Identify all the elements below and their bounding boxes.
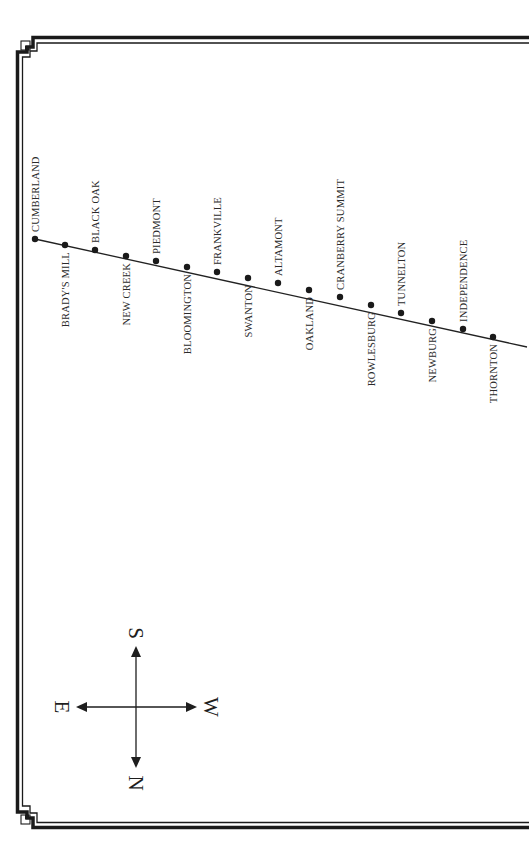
station-dot-icon: [32, 236, 38, 242]
station-label: ROWLESBURG: [366, 312, 377, 387]
station-dot-icon: [429, 318, 435, 324]
station: BRADY'S MILL: [60, 242, 71, 327]
compass-label-left: E: [50, 701, 74, 714]
station-label: TUNNELTON: [396, 242, 407, 306]
station-dot-icon: [460, 326, 466, 332]
station: BLACK OAK: [90, 180, 101, 253]
stations-group: CUMBERLANDBRADY'S MILLBLACK OAKNEW CREEK…: [30, 156, 499, 403]
arrow-right-icon: [186, 702, 197, 712]
station-label: INDEPENDENCE: [458, 240, 469, 322]
station-dot-icon: [214, 269, 220, 275]
station-label: NEW CREEK: [121, 263, 132, 326]
station: SWANTON: [243, 275, 254, 338]
compass-rose: S N E W: [50, 627, 223, 790]
station-dot-icon: [306, 287, 312, 293]
station-label: BLACK OAK: [90, 180, 101, 243]
station-dot-icon: [123, 253, 129, 259]
page-border: [18, 38, 529, 828]
station-label: OAKLAND: [304, 297, 315, 351]
station: TUNNELTON: [396, 242, 407, 317]
station: THORNTON: [488, 334, 499, 403]
station: ALTAMONT: [273, 217, 284, 286]
station-label: SWANTON: [243, 285, 254, 338]
station-label: BLOOMINGTON: [182, 274, 193, 354]
station: INDEPENDENCE: [458, 240, 469, 333]
station-label: ALTAMONT: [273, 217, 284, 276]
station-dot-icon: [490, 334, 496, 340]
compass-label-top: S: [124, 627, 148, 639]
station-dot-icon: [398, 310, 404, 316]
station-label: NEWBURG: [427, 328, 438, 383]
station-dot-icon: [275, 280, 281, 286]
station-dot-icon: [245, 275, 251, 281]
station: NEW CREEK: [121, 253, 132, 326]
station-label: BRADY'S MILL: [60, 252, 71, 327]
station-label: CRANBERRY SUMMIT: [335, 179, 346, 290]
arrow-left-icon: [76, 702, 87, 712]
station: CUMBERLAND: [30, 156, 41, 242]
station-label: PIEDMONT: [151, 198, 162, 254]
station-dot-icon: [62, 242, 68, 248]
compass-label-bottom: N: [124, 775, 148, 790]
station-dot-icon: [337, 294, 343, 300]
station: PIEDMONT: [151, 198, 162, 264]
station: ROWLESBURG: [366, 302, 377, 387]
station: CRANBERRY SUMMIT: [335, 179, 346, 301]
station-label: THORNTON: [488, 344, 499, 403]
station-dot-icon: [92, 247, 98, 253]
station-dot-icon: [368, 302, 374, 308]
station-label: CUMBERLAND: [30, 156, 41, 232]
route-map: CUMBERLANDBRADY'S MILLBLACK OAKNEW CREEK…: [0, 0, 529, 862]
station-dot-icon: [153, 258, 159, 264]
station-dot-icon: [184, 264, 190, 270]
station: BLOOMINGTON: [182, 264, 193, 354]
compass-label-right: W: [199, 697, 223, 717]
arrow-down-icon: [131, 757, 141, 768]
arrow-up-icon: [131, 646, 141, 657]
station: OAKLAND: [304, 287, 315, 351]
station-label: FRANKVILLE: [212, 197, 223, 265]
station: FRANKVILLE: [212, 197, 223, 275]
